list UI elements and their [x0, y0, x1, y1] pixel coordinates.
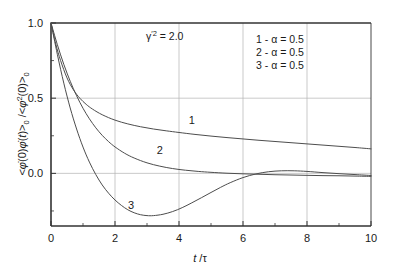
x-tick-label: 6	[240, 232, 246, 244]
x-axis-title: t /τ	[193, 252, 207, 264]
x-tick-label: 0	[48, 232, 54, 244]
curve-tag-2: 2	[157, 144, 163, 156]
y-arg-3: (0)>	[16, 77, 28, 97]
legend: 1 - α = 0.5 2 - α = 0.5 3 - α = 0.5	[256, 33, 304, 71]
y-tick-label: 0.5	[28, 92, 43, 104]
legend-entry-2: 2 - α = 0.5	[256, 46, 304, 58]
x-tick-label: 4	[176, 232, 182, 244]
gamma-value: = 2.0	[157, 30, 184, 42]
x-tick-label: 2	[112, 232, 118, 244]
x-axis-tau: τ	[202, 252, 207, 264]
curve-tag-1: 1	[189, 114, 195, 126]
velocity-autocorrelation-chart: 0246810 0.00.51.0 123 γ′2 = 2.0 1 - α = …	[0, 0, 394, 274]
y-tick-label: 1.0	[28, 17, 43, 29]
x-tick-label: 8	[304, 232, 310, 244]
x-tick-label: 10	[365, 232, 377, 244]
y-subzero-2: 0	[22, 72, 31, 76]
y-arg-1: (0)	[16, 149, 28, 162]
y-tick-label: 0.0	[28, 167, 43, 179]
chart-background	[0, 0, 394, 274]
y-close-1: )>	[16, 125, 28, 135]
curve-tag-3: 3	[128, 199, 134, 211]
chart-figure: 0246810 0.00.51.0 123 γ′2 = 2.0 1 - α = …	[0, 0, 394, 274]
legend-entry-3: 3 - α = 0.5	[256, 59, 304, 71]
legend-entry-1: 1 - α = 0.5	[256, 33, 304, 45]
